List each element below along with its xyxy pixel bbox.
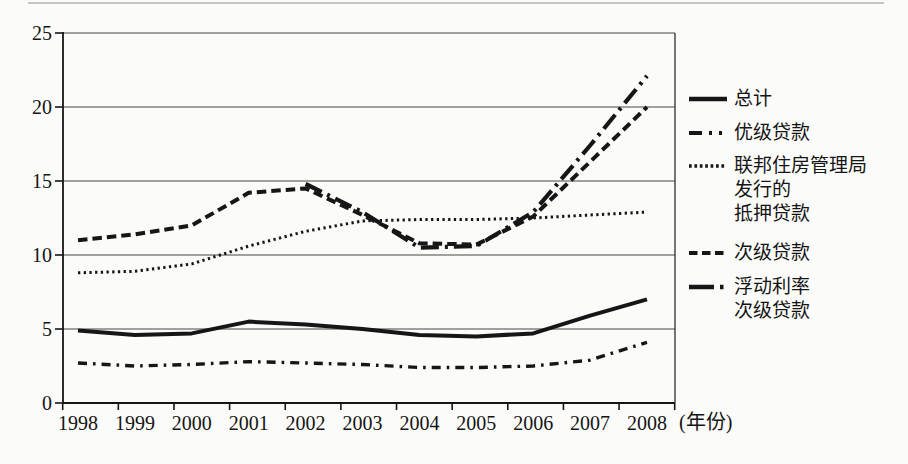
solid-line-icon	[688, 87, 734, 111]
legend-item-prime-loans: 优级贷款	[688, 121, 906, 145]
y-tick-label: 20	[32, 96, 52, 118]
y-tick-label: 25	[32, 22, 52, 44]
y-tick-label: 15	[32, 170, 52, 192]
x-tick-label: 1998	[58, 412, 98, 434]
legend-label: 发行的	[734, 178, 867, 202]
x-tick-label: 2002	[286, 412, 326, 434]
legend-label: 浮动利率	[734, 275, 810, 299]
legend-label: 优级贷款	[734, 121, 810, 145]
long-dash-dot-line-icon	[688, 275, 734, 299]
x-tick-label: 2004	[399, 412, 439, 434]
y-tick-label: 10	[32, 244, 52, 266]
legend-item-subprime-loans: 次级贷款	[688, 241, 906, 265]
legend-label: 抵押贷款	[734, 202, 867, 226]
dashed-line-icon	[688, 241, 734, 265]
series-line-dash-dot	[78, 342, 647, 367]
series-line-solid	[78, 299, 647, 336]
x-tick-label: 1999	[115, 412, 155, 434]
legend-item-arm-subprime-loans: 浮动利率 次级贷款	[688, 275, 906, 323]
dash-dot-dot-line-icon	[688, 121, 734, 145]
x-tick-label: 2001	[229, 412, 269, 434]
x-tick-label: 2007	[570, 412, 610, 434]
legend-label: 总计	[734, 87, 772, 111]
x-tick-label: 2005	[456, 412, 496, 434]
legend-item-fha-mortgage: 联邦住房管理局 发行的 抵押贷款	[688, 154, 906, 226]
x-tick-label: 2000	[172, 412, 212, 434]
x-tick-label: 2006	[513, 412, 553, 434]
y-tick-label: 0	[42, 392, 52, 414]
y-tick-label: 5	[42, 318, 52, 340]
legend-label: 次级贷款	[734, 241, 810, 265]
x-tick-label: 2003	[343, 412, 383, 434]
legend-label: 联邦住房管理局	[734, 154, 867, 178]
series-line-long-dash-dot	[306, 76, 647, 248]
series-line-dotted	[78, 212, 647, 273]
chart-legend: 总计 优级贷款 联邦住房管理局 发行的 抵押贷款 次级贷款	[688, 87, 906, 323]
x-tick-label: 2008	[627, 412, 667, 434]
dotted-line-icon	[688, 154, 734, 178]
x-axis-unit-label: (年份)	[679, 406, 732, 435]
legend-label: 次级贷款	[734, 299, 810, 323]
legend-item-total: 总计	[688, 87, 906, 111]
